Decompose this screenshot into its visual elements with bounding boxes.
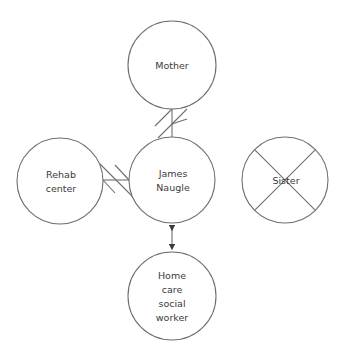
label-sister: Sister [272, 174, 299, 188]
label-james-naugle: James Naugle [156, 167, 189, 195]
label-mother: Mother [155, 59, 189, 73]
label-rehab-center: Rehab center [46, 168, 77, 196]
label-home-care-social-worker: Home care social worker [156, 269, 188, 325]
edge-mother-james [155, 109, 187, 138]
